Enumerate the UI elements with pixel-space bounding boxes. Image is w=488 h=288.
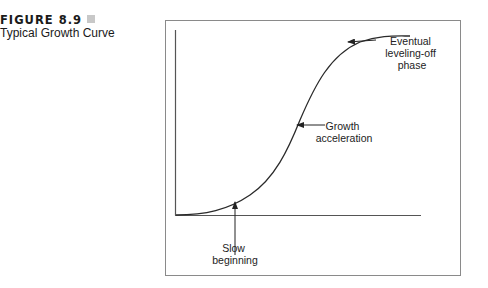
growth-curve-diagram: Eventual leveling-off phase Growth accel…	[0, 0, 488, 288]
slow-beginning-label: Slow beginning	[212, 242, 258, 266]
growth-curve	[176, 36, 410, 215]
acceleration-label: Growth acceleration	[316, 120, 373, 144]
leveling-label: Eventual leveling-off phase	[385, 35, 439, 71]
